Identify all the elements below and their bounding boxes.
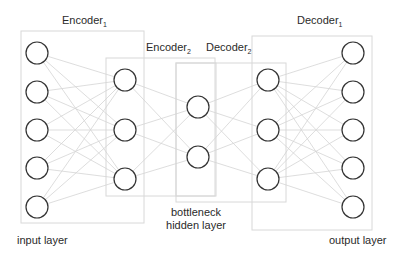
decoder-hidden-node	[257, 69, 279, 91]
bottleneck-box	[176, 63, 216, 196]
input-layer-label: input layer	[17, 234, 68, 246]
connections	[37, 53, 353, 207]
bottleneck-label-line1: bottleneck	[171, 206, 222, 218]
output-node	[342, 196, 364, 218]
connection-edge	[268, 53, 353, 130]
connection-edge	[268, 53, 353, 80]
connection-edge	[268, 168, 353, 179]
bottleneck-node	[187, 146, 209, 168]
connection-edge	[37, 80, 125, 92]
connection-edge	[268, 53, 353, 179]
decoder2-label: Decoder2	[206, 41, 252, 55]
connection-edge	[268, 130, 353, 207]
connection-edge	[37, 53, 125, 130]
output-node	[342, 119, 364, 141]
input-node	[26, 119, 48, 141]
connection-edge	[37, 53, 125, 80]
decoder1-label: Decoder1	[297, 14, 343, 28]
encoder2-label: Encoder2	[146, 41, 191, 55]
autoencoder-diagram: Encoder1 Encoder2 Decoder2 Decoder1 inpu…	[0, 0, 398, 261]
output-node	[342, 42, 364, 64]
connection-edge	[198, 80, 268, 157]
connection-edge	[37, 130, 125, 207]
connection-edge	[268, 179, 353, 207]
input-node	[26, 196, 48, 218]
encoder-hidden-node	[114, 119, 136, 141]
connection-edge	[37, 53, 125, 179]
encoder-hidden-node	[114, 69, 136, 91]
connection-edge	[268, 80, 353, 207]
connection-edge	[37, 179, 125, 207]
output-node	[342, 81, 364, 103]
encoder-hidden-node	[114, 168, 136, 190]
decoder-hidden-node	[257, 119, 279, 141]
connection-edge	[268, 80, 353, 92]
encoder1-label: Encoder1	[62, 14, 107, 28]
input-node	[26, 42, 48, 64]
bottleneck-node	[187, 96, 209, 118]
output-node	[342, 157, 364, 179]
connection-edge	[37, 168, 125, 179]
decoder-hidden-node	[257, 168, 279, 190]
connection-edge	[125, 80, 198, 107]
input-node	[26, 81, 48, 103]
input-node	[26, 157, 48, 179]
connection-edge	[37, 80, 125, 207]
output-layer-label: output layer	[329, 234, 387, 246]
bottleneck-label-line2: hidden layer	[166, 219, 226, 231]
